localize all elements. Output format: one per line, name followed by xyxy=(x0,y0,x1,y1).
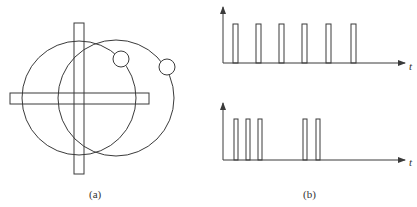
pulse xyxy=(351,24,356,63)
panel-b-bottom-plot: t xyxy=(223,103,413,168)
pulse xyxy=(234,119,238,160)
small-circle-left xyxy=(113,51,129,67)
pulse xyxy=(326,24,331,63)
horizontal-bar xyxy=(10,93,149,104)
panel-b-top-plot: t xyxy=(223,7,413,72)
pulse xyxy=(256,24,261,63)
t-axis-label-bottom: t xyxy=(409,156,413,168)
t-axis-label-top: t xyxy=(409,60,413,72)
panel-b-label: (b) xyxy=(303,188,316,201)
small-circle-right xyxy=(159,59,175,75)
vertical-bar xyxy=(74,23,84,174)
pulses-top xyxy=(233,24,356,63)
panel-a: (a) xyxy=(10,23,175,201)
pulse xyxy=(233,24,238,63)
pulse xyxy=(258,119,262,160)
pulse xyxy=(316,119,320,160)
pulses-bottom xyxy=(234,119,320,160)
pulse xyxy=(302,24,307,63)
pulse xyxy=(246,119,250,160)
figure: (a) t t (b) xyxy=(0,0,417,207)
panel-a-label: (a) xyxy=(89,188,102,201)
pulse xyxy=(303,119,307,160)
pulse xyxy=(279,24,284,63)
